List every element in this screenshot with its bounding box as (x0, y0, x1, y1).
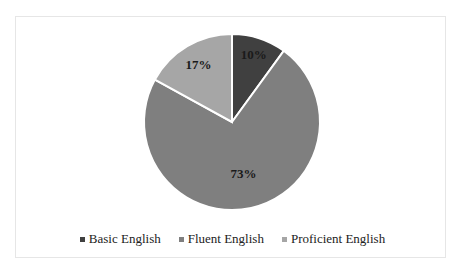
legend-item-basic: Basic English (80, 231, 161, 247)
legend-swatch-fluent (179, 237, 184, 242)
legend-label-proficient: Proficient English (291, 231, 385, 247)
data-label-fluent-english: 73% (231, 166, 257, 182)
pie-chart (0, 0, 465, 270)
legend: Basic English Fluent English Proficient … (0, 231, 465, 247)
legend-item-fluent: Fluent English (179, 231, 264, 247)
legend-label-basic: Basic English (89, 231, 161, 247)
data-label-basic-english: 10% (241, 47, 267, 63)
legend-label-fluent: Fluent English (188, 231, 264, 247)
data-label-proficient-english: 17% (185, 57, 211, 73)
legend-swatch-basic (80, 237, 85, 242)
legend-item-proficient: Proficient English (282, 231, 385, 247)
legend-swatch-proficient (282, 237, 287, 242)
